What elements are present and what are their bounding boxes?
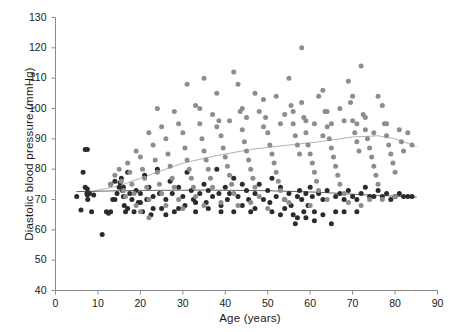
y-tick-90: 90 bbox=[19, 132, 47, 144]
x-tick-80: 80 bbox=[380, 297, 410, 309]
y-tick-130: 130 bbox=[19, 11, 47, 23]
y-tick-80: 80 bbox=[19, 162, 47, 174]
x-tick-10: 10 bbox=[83, 297, 113, 309]
scatter-chart-figure: Diastolic blood pressure (mmHg) Age (yea… bbox=[0, 0, 455, 332]
y-tick-60: 60 bbox=[19, 223, 47, 235]
x-tick-40: 40 bbox=[210, 297, 240, 309]
y-tick-70: 70 bbox=[19, 193, 47, 205]
y-tick-100: 100 bbox=[19, 102, 47, 114]
y-tick-40: 40 bbox=[19, 284, 47, 296]
y-tick-50: 50 bbox=[19, 253, 47, 265]
x-tick-60: 60 bbox=[295, 297, 325, 309]
x-tick-30: 30 bbox=[168, 297, 198, 309]
x-axis-label: Age (years) bbox=[140, 312, 360, 324]
x-tick-20: 20 bbox=[125, 297, 155, 309]
x-tick-50: 50 bbox=[253, 297, 283, 309]
y-tick-120: 120 bbox=[19, 41, 47, 53]
plot-canvas bbox=[0, 0, 455, 332]
x-tick-70: 70 bbox=[338, 297, 368, 309]
y-tick-110: 110 bbox=[19, 71, 47, 83]
x-tick-90: 90 bbox=[423, 297, 453, 309]
x-tick-0: 0 bbox=[41, 297, 71, 309]
